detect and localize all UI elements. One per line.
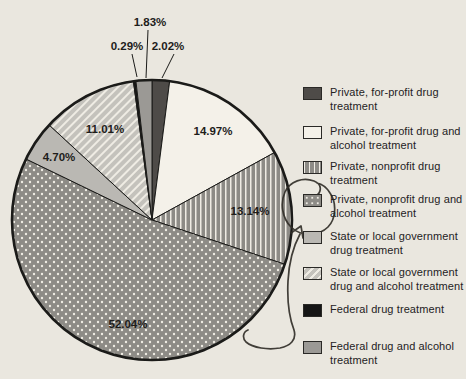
legend-item: Private, for-profit drug andalcohol trea… <box>303 125 461 152</box>
percent-label: 2.02% <box>152 40 185 52</box>
legend-swatch-solid-dark <box>303 87 322 100</box>
legend-label-line: treatment <box>330 174 441 188</box>
legend-label-line: Private, nonprofit drug and <box>330 193 462 207</box>
legend-label-line: drug treatment <box>330 244 458 258</box>
legend-label: Federal drug treatment <box>330 303 444 317</box>
percent-label: 0.29% <box>111 40 144 52</box>
legend-label-line: Private, for-profit drug <box>330 86 439 100</box>
percent-label: 52.04% <box>108 318 147 330</box>
percent-label: 1.83% <box>134 16 167 28</box>
legend-swatch-solid-black <box>303 304 322 317</box>
pie-chart-figure: 2.02%14.97%13.14%52.04%4.70%11.01%0.29%1… <box>0 0 466 379</box>
legend-label-line: alcohol treatment <box>330 139 461 153</box>
percent-label: 11.01% <box>86 123 124 135</box>
legend-item: Private, nonprofit drugtreatment <box>303 160 441 187</box>
percent-label: 4.70% <box>43 151 76 163</box>
legend-label: Federal drug and alcoholtreatment <box>330 340 454 367</box>
legend-item: Federal drug treatment <box>303 303 444 317</box>
legend-item: Federal drug and alcoholtreatment <box>303 340 454 367</box>
leader-line <box>132 54 137 77</box>
legend-label-line: treatment <box>330 354 454 368</box>
legend-label-line: Federal drug treatment <box>330 303 444 317</box>
legend-label-line: Private, for-profit drug and <box>330 125 461 139</box>
legend-label-line: drug and alcohol treatment <box>330 280 463 294</box>
legend-swatch-diagonal-lines <box>303 267 322 280</box>
legend-label: Private, for-profit drug andalcohol trea… <box>330 125 461 152</box>
percent-label: 13.14% <box>230 205 269 217</box>
leader-line <box>162 54 174 78</box>
legend-swatch-vertical-lines <box>303 161 322 174</box>
legend-label-line: State or local government <box>330 266 463 280</box>
legend-label: Private, for-profit drugtreatment <box>330 86 439 113</box>
legend-item: Private, nonprofit drug andalcohol treat… <box>303 193 462 220</box>
legend-label: Private, nonprofit drug andalcohol treat… <box>330 193 462 220</box>
legend-swatch-dots <box>303 194 322 207</box>
legend-label-line: treatment <box>330 100 439 114</box>
legend-label: State or local governmentdrug and alcoho… <box>330 266 463 293</box>
legend-item: State or local governmentdrug treatment <box>303 230 458 257</box>
legend: Private, for-profit drugtreatmentPrivate… <box>303 0 466 379</box>
percent-label: 14.97% <box>193 125 232 137</box>
legend-item: State or local governmentdrug and alcoho… <box>303 266 463 293</box>
legend-item: Private, for-profit drugtreatment <box>303 86 439 113</box>
legend-label-line: alcohol treatment <box>330 207 462 221</box>
legend-label-line: Federal drug and alcohol <box>330 340 454 354</box>
legend-label: State or local governmentdrug treatment <box>330 230 458 257</box>
leader-line <box>146 30 148 78</box>
legend-swatch-solid-white <box>303 126 322 139</box>
legend-swatch-solid-medium <box>303 341 322 354</box>
legend-label-line: Private, nonprofit drug <box>330 160 441 174</box>
legend-label-line: State or local government <box>330 230 458 244</box>
legend-swatch-solid-light <box>303 231 322 244</box>
legend-label: Private, nonprofit drugtreatment <box>330 160 441 187</box>
